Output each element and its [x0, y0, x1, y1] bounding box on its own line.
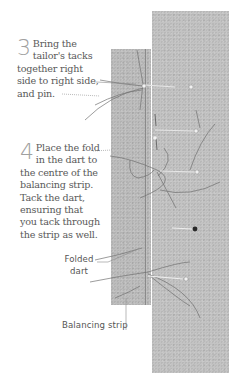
folded-dart-label-line1: Folded	[62, 253, 96, 265]
step-number: 3	[17, 39, 31, 56]
step-3-instruction: 3 Bring the tailor's tacks together righ…	[17, 38, 101, 100]
step-number: 4	[20, 143, 34, 160]
step-4-instruction: 4 Place the fold in the dart to the cent…	[20, 142, 102, 241]
balancing-strip-label: Balancing strip	[62, 319, 128, 331]
folded-dart-label-line2: dart	[62, 265, 96, 277]
pins	[142, 84, 199, 281]
folded-dart-label: Folded dart	[62, 253, 96, 277]
